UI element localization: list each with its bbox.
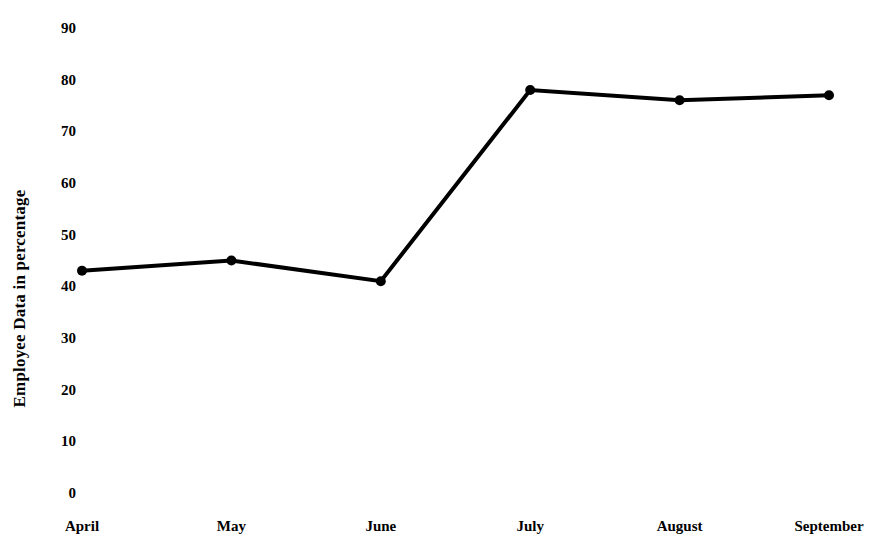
data-point-marker (226, 256, 236, 266)
line-chart: Employee Data in percentage 010203040506… (0, 0, 886, 553)
data-point-marker (77, 266, 87, 276)
data-point-marker (824, 90, 834, 100)
series-employee-data (77, 85, 834, 286)
data-point-marker (525, 85, 535, 95)
series-line (82, 90, 829, 281)
plot-area (0, 0, 886, 553)
data-point-marker (675, 95, 685, 105)
data-point-marker (376, 276, 386, 286)
